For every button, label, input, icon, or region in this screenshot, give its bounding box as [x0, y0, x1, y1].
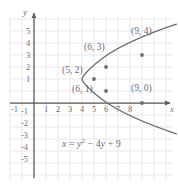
- y-tick-minus-5: -5: [21, 155, 28, 164]
- x-tick-1: 1: [44, 105, 48, 114]
- point-6-1: [104, 89, 108, 93]
- y-tick-minus-2: -2: [21, 119, 28, 128]
- point-6-3: [104, 65, 108, 69]
- parabola-figure: y x 5 4 3 2 1 -1 -2 -3 -4 -5 -1 1 2 3 4 …: [0, 0, 178, 189]
- point-label-6-3: (6, 3): [84, 43, 105, 53]
- equation-lhs: x: [62, 138, 66, 149]
- point-9-4: [140, 53, 144, 57]
- x-tick-8: 8: [128, 105, 132, 114]
- equation-label: x = y2 − 4y + 9: [62, 138, 121, 149]
- x-tick-6: 6: [104, 105, 108, 114]
- y-tick-minus-4: -4: [21, 143, 28, 152]
- point-5-2: [92, 77, 96, 81]
- equation-equals: =: [69, 138, 75, 149]
- equation-mid: − 4: [88, 138, 101, 149]
- point-9-0: [140, 101, 144, 105]
- y-tick-4: 4: [26, 39, 30, 48]
- point-label-9-4: (9, 4): [131, 27, 152, 37]
- axes: [10, 13, 170, 178]
- x-tick-minus-1: -1: [11, 105, 18, 114]
- equation-var2: y: [101, 138, 105, 149]
- y-tick-1: 1: [26, 75, 30, 84]
- x-tick-5: 5: [92, 105, 96, 114]
- x-tick-3: 3: [68, 105, 72, 114]
- x-tick-4: 4: [80, 105, 84, 114]
- y-tick-5: 5: [26, 27, 30, 36]
- y-tick-2: 2: [26, 63, 30, 72]
- point-label-9-0: (9, 0): [131, 84, 152, 94]
- y-tick-minus-1: -1: [21, 107, 28, 116]
- y-axis-label: y: [23, 8, 27, 17]
- x-axis-label: x: [170, 105, 174, 114]
- y-tick-3: 3: [26, 51, 30, 60]
- y-tick-minus-3: -3: [21, 131, 28, 140]
- x-tick-7: 7: [116, 105, 120, 114]
- x-tick-2: 2: [56, 105, 60, 114]
- point-label-5-2: (5, 2): [62, 66, 83, 76]
- equation-exponent: 2: [82, 137, 86, 145]
- equation-tail: + 9: [108, 138, 121, 149]
- point-label-6-1: (6, 1): [72, 85, 93, 95]
